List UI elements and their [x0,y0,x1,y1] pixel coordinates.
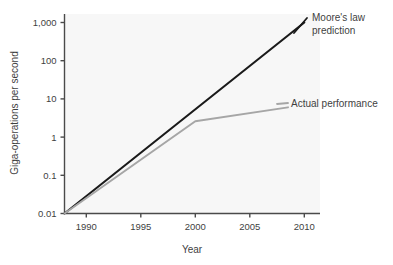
y-axis-title: Giga-operations per second [9,51,20,174]
x-axis-title: Year [182,244,203,255]
chart-figure: 0.010.11101001,000 19901995200020052010 … [0,0,393,265]
x-axis-tick-label: 2000 [185,221,206,232]
y-axis-tick-label: 1,000 [33,17,57,28]
annotation-leader-actual [277,103,288,104]
x-axis-tick-label: 1995 [130,221,151,232]
y-axis-tick-label: 0.1 [43,170,56,181]
x-axis-tick-label: 1990 [76,221,97,232]
line-chart: 0.010.11101001,000 19901995200020052010 … [0,0,393,265]
annotation-moores-law-line2: prediction [312,25,355,36]
annotation-actual-performance-line1: Actual performance [291,98,378,109]
y-axis-tick-label: 0.01 [38,208,57,219]
annotation-moores-law-prediction: Moore's law prediction [312,12,368,36]
x-axis-tick-label: 2005 [239,221,260,232]
annotation-moores-law-line1: Moore's law [312,12,366,23]
y-axis-tick-labels: 0.010.11101001,000 [33,17,57,219]
y-axis-tick-label: 10 [46,93,57,104]
x-axis-tick-label: 2010 [294,221,315,232]
x-axis-tick-labels: 19901995200020052010 [76,221,315,232]
y-axis-tick-label: 100 [41,55,57,66]
annotation-actual-performance: Actual performance [291,98,378,109]
y-axis-tick-label: 1 [51,132,56,143]
